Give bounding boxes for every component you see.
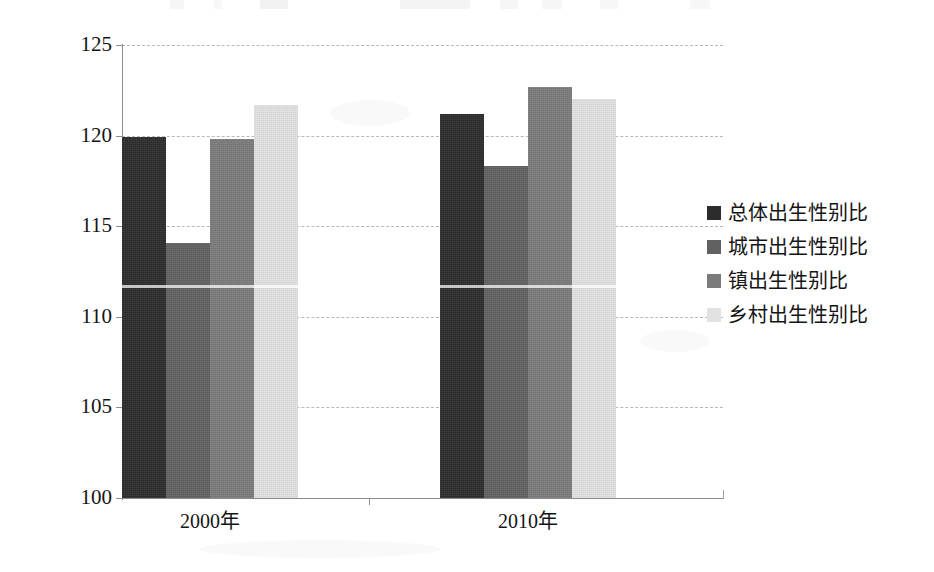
legend-item-1[interactable]: 总体出生性别比 (707, 196, 927, 230)
legend-swatch-icon (707, 240, 721, 254)
y-axis-tick-label: 100 (36, 487, 112, 508)
plot-right-edge (723, 490, 724, 499)
plot-area (122, 45, 723, 498)
legend-item-label: 城市出生性别比 (728, 236, 868, 258)
y-axis-tick-label: 105 (36, 396, 112, 417)
y-axis-tick-label: 125 (36, 34, 112, 55)
bar-1-3 (210, 139, 254, 498)
bar-2-3 (528, 87, 572, 498)
y-axis-tick-label: 115 (36, 215, 112, 236)
legend-swatch-icon (707, 274, 721, 288)
bar-2-4 (572, 99, 616, 498)
legend-item-2[interactable]: 城市出生性别比 (707, 230, 927, 264)
bar-1-2 (166, 243, 210, 498)
legend-item-4[interactable]: 乡村出生性别比 (707, 298, 927, 332)
x-axis-tick (369, 498, 370, 505)
bar-2-1 (440, 114, 484, 498)
bar-chart: 125120115110105100 2000年2010年 总体出生性别比城市出… (0, 0, 934, 572)
x-axis-tick-label: 2010年 (458, 509, 598, 533)
scan-artifact (170, 0, 770, 9)
legend-item-label: 总体出生性别比 (728, 202, 868, 224)
legend-swatch-icon (707, 206, 721, 220)
bar-2-2 (484, 166, 528, 498)
x-axis-tick-label: 2000年 (140, 509, 280, 533)
legend-swatch-icon (707, 308, 721, 322)
legend-item-label: 镇出生性别比 (728, 270, 848, 292)
y-axis-tick-label: 120 (36, 125, 112, 146)
paper-smudge (200, 540, 440, 558)
bar-1-4 (254, 105, 298, 498)
bar-1-1 (122, 137, 166, 498)
legend-item-label: 乡村出生性别比 (728, 304, 868, 326)
x-axis-line (122, 498, 724, 499)
y-axis-tick-label: 110 (36, 306, 112, 327)
chart-legend: 总体出生性别比城市出生性别比镇出生性别比乡村出生性别比 (707, 196, 927, 332)
legend-item-3[interactable]: 镇出生性别比 (707, 264, 927, 298)
